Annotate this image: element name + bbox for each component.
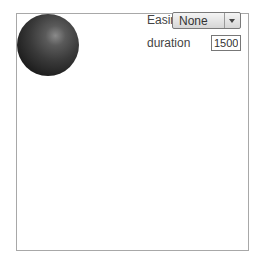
- easing-selected-value: None: [179, 14, 208, 28]
- duration-input[interactable]: [211, 35, 241, 51]
- chevron-down-icon[interactable]: [224, 13, 240, 28]
- duration-label: duration: [147, 36, 190, 50]
- animated-ball: [17, 14, 79, 76]
- easing-select[interactable]: None: [172, 12, 241, 29]
